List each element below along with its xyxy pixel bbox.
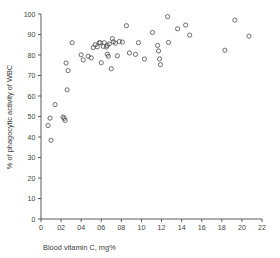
- data-point-marker: [99, 61, 103, 65]
- data-point-marker: [79, 53, 83, 57]
- data-point-marker: [49, 138, 53, 142]
- data-point-marker: [64, 61, 68, 65]
- data-point-marker: [66, 68, 70, 72]
- data-point-marker: [155, 43, 159, 47]
- x-tick-label: 02: [57, 224, 65, 232]
- chart-canvas: 0102030405060708090100 00204060810121416…: [0, 0, 280, 258]
- data-point-marker: [48, 116, 52, 120]
- data-point-marker: [115, 54, 119, 58]
- x-tick-label: 18: [218, 224, 226, 232]
- scatter-plot-figure: 0102030405060708090100 00204060810121416…: [0, 0, 280, 258]
- data-point-marker: [81, 58, 85, 62]
- y-tick-label: 50: [28, 113, 36, 121]
- data-point-marker: [176, 27, 180, 31]
- data-point-marker: [124, 24, 128, 28]
- x-tick-label: 20: [238, 224, 246, 232]
- x-tick-label: 10: [138, 224, 146, 232]
- x-tick-label: 04: [77, 224, 85, 232]
- y-tick-label: 10: [28, 195, 36, 203]
- data-point-marker: [157, 57, 161, 61]
- data-point-marker: [150, 30, 154, 34]
- data-point-marker: [53, 103, 57, 107]
- y-tick-label: 30: [28, 154, 36, 162]
- x-tick-label: 22: [258, 224, 266, 232]
- x-tick-label: 16: [198, 224, 206, 232]
- data-point-marker: [120, 40, 124, 44]
- data-point-marker: [142, 57, 146, 61]
- data-point-marker: [166, 40, 170, 44]
- x-axis-title: Blood vitamin C, mg%: [43, 243, 116, 252]
- x-tick-label: 0: [39, 224, 43, 232]
- x-tick-label: 06: [97, 224, 105, 232]
- y-tick-label: 40: [28, 134, 36, 142]
- data-point-marker: [158, 63, 162, 67]
- y-axis-group: 0102030405060708090100: [24, 11, 41, 224]
- data-point-marker: [233, 18, 237, 22]
- data-point-marker: [127, 51, 131, 55]
- data-point-marker: [46, 123, 50, 127]
- y-tick-label: 0: [32, 216, 36, 224]
- data-points-group: [46, 15, 251, 143]
- data-point-marker: [70, 41, 74, 45]
- y-axis-title: % of phagocytic activity of WBC: [5, 64, 14, 169]
- y-tick-label: 20: [28, 175, 36, 183]
- data-point-marker: [184, 23, 188, 27]
- data-point-marker: [65, 88, 69, 92]
- y-tick-label: 60: [28, 93, 36, 101]
- data-point-marker: [156, 49, 160, 53]
- x-tick-label: 08: [117, 224, 125, 232]
- x-tick-label: 12: [158, 224, 166, 232]
- data-point-marker: [165, 15, 169, 19]
- y-tick-label: 100: [24, 11, 36, 19]
- data-point-marker: [188, 33, 192, 37]
- data-point-marker: [136, 41, 140, 45]
- data-point-marker: [223, 48, 227, 52]
- y-tick-label: 70: [28, 72, 36, 80]
- x-axis-group: 00204060810121416182022: [39, 219, 266, 232]
- y-tick-label: 90: [28, 31, 36, 39]
- data-point-marker: [247, 34, 251, 38]
- data-point-marker: [133, 52, 137, 56]
- y-tick-label: 80: [28, 52, 36, 60]
- x-tick-label: 14: [178, 224, 186, 232]
- data-point-marker: [109, 67, 113, 71]
